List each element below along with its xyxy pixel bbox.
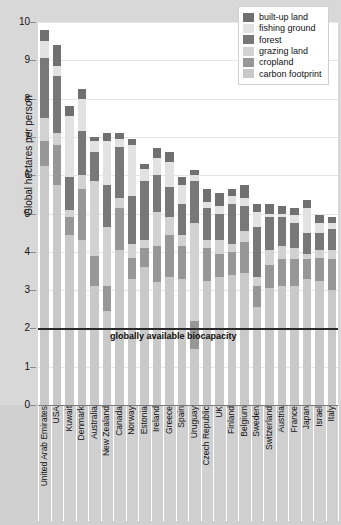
legend-item-label: forest	[259, 35, 282, 45]
bar[interactable]	[253, 204, 262, 405]
bar-segment	[203, 248, 212, 281]
bar-segment	[40, 141, 49, 166]
x-axis-tick-label: Denmark	[77, 406, 86, 440]
bar[interactable]	[140, 164, 149, 405]
bar-segment	[65, 106, 74, 116]
legend-item-label: carbon footprint	[259, 69, 322, 79]
bar-segment	[265, 217, 274, 250]
bar[interactable]	[115, 133, 124, 405]
bar-segment	[178, 279, 187, 405]
x-label-separator	[213, 406, 214, 521]
bar[interactable]	[315, 215, 324, 405]
bar-segment	[290, 223, 299, 248]
bar-segment	[215, 193, 224, 206]
bar[interactable]	[240, 185, 249, 405]
legend-item[interactable]: carbon footprint	[243, 69, 322, 79]
x-axis-tick-label: Sweden	[252, 406, 261, 437]
bar[interactable]	[215, 193, 224, 406]
y-axis-title: Global hectares per person	[23, 76, 34, 236]
bar[interactable]	[78, 89, 87, 405]
bar-segment	[228, 252, 237, 275]
bar[interactable]	[65, 106, 74, 405]
bar[interactable]	[128, 139, 137, 405]
x-label-separator	[338, 406, 339, 521]
bar-segment	[315, 250, 324, 258]
y-axis-tick-mark	[30, 405, 36, 406]
bar-segment	[128, 279, 137, 405]
legend-swatch-icon	[243, 35, 254, 44]
bar-segment	[315, 223, 324, 233]
bar[interactable]	[190, 170, 199, 406]
x-axis-tick-label: Ireland	[152, 406, 161, 432]
bar[interactable]	[178, 177, 187, 405]
bar-segment	[90, 256, 99, 287]
bar[interactable]	[328, 217, 337, 405]
bar-segment	[228, 196, 237, 204]
bar[interactable]	[228, 189, 237, 405]
bar-segment	[78, 175, 87, 188]
bar-segment	[303, 259, 312, 278]
bar-segment	[253, 227, 262, 277]
bar-segment	[53, 66, 62, 76]
bar-segment	[240, 185, 249, 198]
x-axis-tick-label: Spain	[177, 406, 186, 428]
bar-segment	[290, 248, 299, 259]
legend-item[interactable]: cropland	[243, 57, 322, 67]
bar-segment	[303, 279, 312, 405]
bar-segment	[65, 210, 74, 218]
bar[interactable]	[153, 148, 162, 405]
bar-segment	[303, 200, 312, 208]
bar-segment	[103, 185, 112, 227]
bar[interactable]	[290, 208, 299, 405]
bar-segment	[153, 158, 162, 175]
bar-segment	[128, 244, 137, 257]
legend-swatch-icon	[243, 13, 254, 22]
bar-segment	[53, 45, 62, 66]
legend-item-label: fishing ground	[259, 23, 316, 33]
legend-item[interactable]: grazing land	[243, 46, 322, 56]
bar-segment	[328, 229, 337, 250]
bar[interactable]	[278, 206, 287, 405]
bar-segment	[78, 99, 87, 132]
bar-segment	[253, 307, 262, 405]
bar-segment	[303, 208, 312, 233]
bar-segment	[65, 116, 74, 177]
bar[interactable]	[203, 189, 212, 405]
biocapacity-label: globally available biocapacity	[110, 331, 237, 341]
bar[interactable]	[40, 30, 49, 405]
bar-segment	[240, 198, 249, 206]
bar[interactable]	[103, 133, 112, 405]
bar-segment	[65, 235, 74, 405]
legend-item[interactable]: built-up land	[243, 12, 322, 22]
bar-segment	[265, 265, 274, 288]
bar-segment	[53, 133, 62, 144]
bar-segment	[215, 214, 224, 241]
bar-segment	[165, 187, 174, 218]
bar-segment	[165, 162, 174, 187]
bar-segment	[128, 196, 137, 244]
bar[interactable]	[90, 137, 99, 405]
bar[interactable]	[53, 45, 62, 405]
x-axis-tick-label: United Arab Emirates	[40, 406, 49, 486]
x-axis-tick-label: Finland	[227, 406, 236, 434]
bar[interactable]	[303, 200, 312, 405]
bar-segment	[115, 147, 124, 199]
bar-segment	[290, 208, 299, 216]
legend-item[interactable]: forest	[243, 35, 322, 45]
bar-segment	[103, 286, 112, 311]
bar[interactable]	[165, 152, 174, 405]
x-axis-tick-label: France	[290, 406, 299, 432]
bar-segment	[190, 223, 199, 321]
x-axis-tick-label: Uruguay	[190, 406, 199, 438]
x-axis-tick-label: Estonia	[140, 406, 149, 434]
legend-item[interactable]: fishing ground	[243, 23, 322, 33]
x-axis-tick-label: USA	[52, 406, 61, 423]
bar-segment	[178, 235, 187, 246]
bar-segment	[128, 258, 137, 279]
bar-segment	[165, 217, 174, 234]
bar-segment	[78, 131, 87, 175]
bar[interactable]	[265, 204, 274, 405]
x-axis-tick-label: Japan	[302, 406, 311, 429]
bar-segment	[103, 141, 112, 185]
bar-segment	[78, 240, 87, 405]
